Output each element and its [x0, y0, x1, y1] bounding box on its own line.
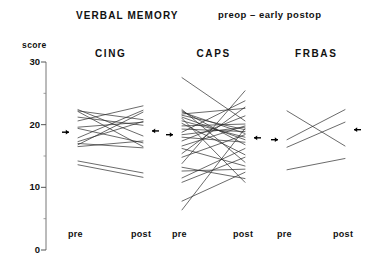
subject-lines	[78, 78, 345, 210]
subject-line	[182, 124, 245, 126]
mean-marker-arrowhead	[254, 135, 257, 140]
subject-line	[287, 159, 345, 170]
mean-marker-arrowhead	[170, 132, 173, 137]
subject-line	[78, 128, 143, 142]
subject-line	[287, 111, 345, 146]
subject-line	[287, 110, 345, 140]
subject-line	[182, 108, 245, 114]
mean-marker-arrowhead	[275, 137, 278, 142]
figure-canvas: VERBAL MEMORY preop – early postop score…	[0, 0, 372, 263]
plot-area	[0, 0, 372, 263]
mean-marker-arrowhead	[66, 130, 69, 135]
subject-line	[182, 172, 245, 201]
mean-marker-arrowhead	[354, 127, 357, 132]
y-axis	[41, 62, 46, 250]
mean-marker-arrowhead	[152, 129, 155, 134]
subject-line	[287, 122, 345, 147]
